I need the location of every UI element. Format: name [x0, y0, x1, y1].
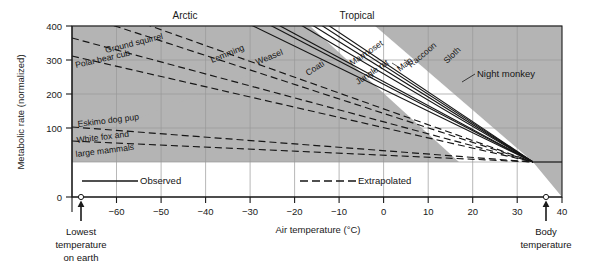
x-tick-label--40: −40 [198, 206, 214, 217]
body-temperature-label-line1: Body [535, 226, 557, 237]
region-label-tropical: Tropical [339, 10, 374, 21]
y-tick-label-0: 0 [57, 192, 62, 203]
x-tick-label--20: −20 [287, 206, 303, 217]
x-tick-label--50: −50 [153, 206, 169, 217]
y-axis-title: Metabolic rate (normalized) [15, 54, 26, 169]
body-temperature-label-line2: temperature [520, 239, 571, 250]
y-tick-label-300: 300 [46, 55, 62, 66]
metabolic-rate-chart: Polar bear cub Ground squirrel Lemming W… [0, 0, 612, 274]
legend-label-extrapolated: Extrapolated [358, 175, 411, 186]
lowest-temperature-label-line3: on earth [64, 252, 99, 263]
x-axis-title: Air temperature (°C) [275, 224, 360, 235]
x-tick-label--10: −10 [331, 206, 347, 217]
region-label-arctic: Arctic [173, 10, 198, 21]
y-tick-label-200: 200 [46, 89, 62, 100]
body-temperature-marker [543, 194, 548, 199]
x-tick-label--60: −60 [108, 206, 124, 217]
x-tick-label-10: 10 [423, 206, 434, 217]
legend-label-observed: Observed [140, 175, 181, 186]
lowest-temperature-label-line2: temperature [55, 239, 106, 250]
lowest-temperature-label-line1: Lowest [66, 226, 96, 237]
x-tick-label-40: 40 [557, 206, 568, 217]
y-tick-label-100: 100 [46, 123, 62, 134]
x-tick-label-30: 30 [512, 206, 523, 217]
x-tick-label-0: 0 [381, 206, 386, 217]
x-tick-label--30: −30 [242, 206, 258, 217]
lowest-temperature-marker [78, 194, 83, 199]
series-label-night-monkey: Night monkey [477, 68, 535, 79]
y-tick-label-400: 400 [46, 21, 62, 32]
x-tick-label-20: 20 [467, 206, 478, 217]
